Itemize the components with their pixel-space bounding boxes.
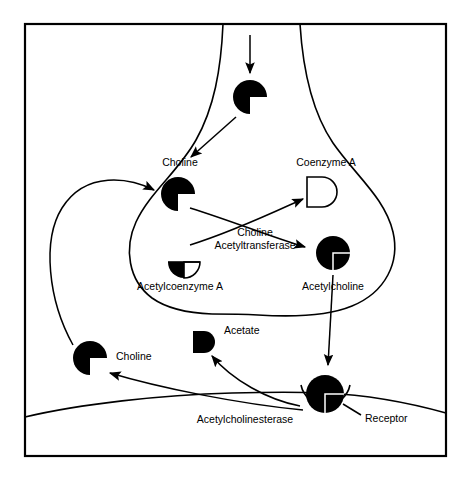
choline-terminal-molecule bbox=[161, 177, 195, 211]
choline-cleft-disc bbox=[73, 341, 107, 375]
acetylcoenzyme-a-molecule bbox=[168, 262, 200, 278]
acetate-wedge bbox=[193, 331, 215, 353]
presynaptic-terminal-right-wall bbox=[212, 24, 395, 316]
choline-cleft-molecule bbox=[73, 341, 107, 375]
acetylcholine-molecule bbox=[316, 236, 350, 270]
label-choline-cleft: Choline bbox=[116, 350, 152, 362]
label-choline-presynaptic: Choline bbox=[162, 156, 198, 168]
receptor-leader-line bbox=[343, 404, 361, 415]
figure-root: Choline Coenzyme A Choline Acetyltransfe… bbox=[0, 0, 469, 483]
coenzyme-a-molecule bbox=[307, 177, 337, 207]
acetylcholine-bound-molecule bbox=[306, 375, 344, 413]
label-receptor: Receptor bbox=[365, 412, 408, 424]
label-acetylcholinesterase: Acetylcholinesterase bbox=[197, 413, 293, 425]
choline-axon-molecule bbox=[233, 80, 267, 114]
choline-terminal-disc bbox=[161, 177, 195, 211]
acetylcoenzyme-a-left-half bbox=[168, 262, 184, 278]
label-enzyme-line2: Acetyltransferase bbox=[214, 239, 295, 251]
label-acetylcoenzyme-a: Acetylcoenzyme A bbox=[137, 280, 223, 292]
label-acetylcholine: Acetylcholine bbox=[302, 280, 364, 292]
arrow-choline-reuptake bbox=[50, 180, 154, 345]
coenzyme-a-wedge bbox=[307, 177, 337, 207]
synapse-diagram: Choline Coenzyme A Choline Acetyltransfe… bbox=[0, 0, 469, 483]
acetylcoenzyme-a-right-half bbox=[184, 262, 200, 278]
acetate-molecule bbox=[193, 331, 215, 353]
label-acetate: Acetate bbox=[224, 324, 260, 336]
label-coenzyme-a: Coenzyme A bbox=[296, 156, 356, 168]
choline-axon-disc bbox=[233, 80, 267, 114]
label-enzyme-line1: Choline bbox=[237, 226, 273, 238]
